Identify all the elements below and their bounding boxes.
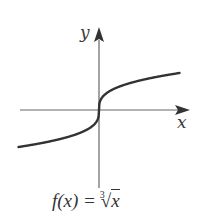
x-axis-label: x (177, 112, 187, 132)
caption-prefix: f(x) = (52, 190, 101, 211)
plot-area (0, 0, 207, 217)
radical-index: 3 (100, 189, 105, 200)
function-caption: f(x) = 3√x (52, 190, 120, 212)
caption-radicand: x (111, 189, 119, 211)
y-axis-arrow-icon (94, 27, 104, 42)
y-axis-label: y (80, 22, 90, 42)
cube-root-radical: 3√ (101, 190, 111, 212)
